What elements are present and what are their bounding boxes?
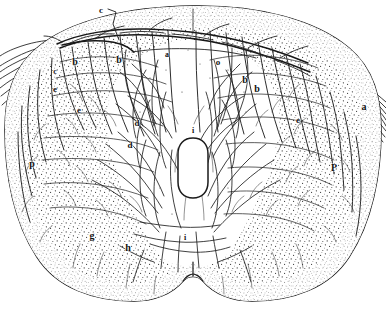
spinal-cord-figure: c a o b b b b c e e e a d d i p P g h i bbox=[0, 0, 386, 312]
central-canal bbox=[178, 138, 208, 198]
spinal-cord-illustration bbox=[0, 0, 386, 312]
